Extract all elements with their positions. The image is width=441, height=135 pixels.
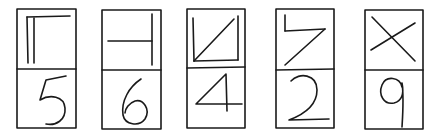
card-4: reversed-z-shape 2 bbox=[275, 8, 336, 130]
horizontal-line-into-vertical-icon bbox=[108, 14, 152, 65]
card-3-drawing bbox=[186, 8, 247, 130]
double-vertical-with-top-bar-icon bbox=[27, 16, 70, 63]
reversed-z-shape-icon bbox=[285, 15, 325, 65]
card-1-drawing bbox=[16, 8, 78, 130]
card-1: double-vertical-with-top-bar 5 bbox=[16, 8, 78, 130]
digit-4-glyph bbox=[196, 74, 242, 111]
card-4-drawing bbox=[275, 8, 336, 130]
card-3: open-box-with-diagonal 4 bbox=[186, 8, 247, 130]
card-2-drawing bbox=[101, 9, 163, 131]
open-box-with-diagonal-icon bbox=[193, 16, 238, 61]
card-divider bbox=[187, 67, 245, 68]
digit-5-glyph bbox=[40, 76, 66, 124]
card-5-drawing bbox=[364, 9, 425, 131]
digit-6-glyph bbox=[123, 79, 147, 124]
digit-9-glyph bbox=[381, 78, 403, 127]
card-divider bbox=[276, 69, 334, 70]
digit-2-glyph bbox=[289, 76, 329, 120]
x-cross-icon bbox=[371, 17, 415, 61]
card-5: x-cross 9 bbox=[364, 9, 425, 131]
card-2: horizontal-line-into-vertical 6 bbox=[101, 9, 163, 131]
